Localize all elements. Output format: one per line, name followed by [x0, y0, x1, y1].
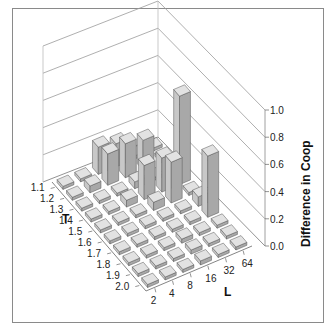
bar: [123, 251, 140, 265]
x-tick-label: 64: [242, 258, 254, 269]
bar: [120, 132, 137, 177]
x-tick-label: 16: [205, 273, 217, 284]
bar: [149, 225, 166, 239]
bar: [158, 236, 175, 250]
y-tick-label: 2.0: [115, 281, 129, 292]
bar: [95, 219, 112, 233]
y-axis-label: T: [62, 212, 70, 226]
bar: [159, 266, 176, 280]
z-tick-label: 0.2: [270, 214, 284, 225]
bar: [211, 214, 228, 228]
y-tick-label: 1.7: [87, 248, 101, 259]
bar: [142, 273, 159, 287]
bar: [175, 199, 192, 213]
bar: [185, 239, 202, 254]
bar3d-chart: 1.11.21.31.41.51.61.71.81.92.02481632640…: [0, 0, 332, 332]
bar: [103, 200, 120, 214]
bar: [94, 189, 111, 203]
bar: [114, 240, 131, 254]
y-tick-label: 1.9: [106, 270, 120, 281]
bar: [67, 186, 84, 200]
bar: [177, 258, 194, 272]
y-tick-label: 1.2: [40, 193, 54, 204]
bar: [112, 211, 129, 225]
bar: [176, 228, 193, 243]
bar: [194, 221, 211, 235]
bar: [85, 208, 102, 222]
bar: [141, 244, 158, 258]
bar: [130, 204, 147, 218]
y-tick-label: 1.1: [31, 182, 45, 193]
z-tick-label: 0.8: [270, 132, 284, 143]
bar: [221, 225, 238, 239]
bar: [104, 229, 121, 243]
z-axis-label: Difference in Coop: [299, 140, 313, 247]
bar: [202, 145, 219, 218]
bar: [195, 250, 212, 265]
x-tick-label: 2: [151, 295, 157, 306]
x-axis-label: L: [224, 285, 231, 299]
bar: [122, 222, 139, 236]
bar: [131, 233, 148, 247]
z-tick-label: 0.4: [270, 187, 284, 198]
bar: [157, 207, 174, 221]
bar: [102, 143, 119, 186]
z-tick-label: 0.0: [270, 241, 284, 252]
bar: [230, 236, 247, 250]
bar: [203, 232, 220, 246]
y-tick-label: 1.8: [97, 259, 111, 270]
bar: [150, 255, 167, 269]
x-tick-label: 8: [187, 280, 193, 291]
y-tick-label: 1.6: [78, 237, 92, 248]
bar: [57, 175, 74, 189]
bar: [165, 151, 182, 203]
bar: [76, 197, 93, 211]
x-tick-label: 4: [169, 288, 175, 299]
z-tick-label: 1.0: [270, 105, 284, 116]
x-tick-label: 32: [224, 265, 236, 276]
bar: [139, 214, 156, 228]
bar: [184, 210, 201, 224]
bar: [138, 154, 155, 199]
y-tick-label: 1.5: [68, 226, 82, 237]
bar: [132, 262, 149, 276]
z-tick-label: 0.6: [270, 159, 284, 170]
bar: [212, 243, 229, 257]
bar: [168, 247, 185, 261]
chart-bars: [57, 85, 247, 288]
